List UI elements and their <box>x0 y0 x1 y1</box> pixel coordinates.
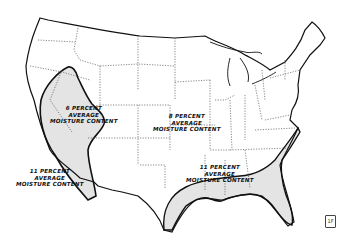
zone-label-gulf: 11 PERCENT AVERAGE MOISTURE CONTENT <box>186 164 254 184</box>
zone-label-pacific-coast: 11 PERCENT AVERAGE MOISTURE CONTENT <box>16 168 84 188</box>
zone-label-interior-line3: MOISTURE CONTENT <box>153 126 221 133</box>
zone-label-west: 6 PERCENT AVERAGE MOISTURE CONTENT <box>50 105 118 125</box>
zone-label-west-line1: 6 PERCENT <box>50 105 118 112</box>
zone-label-gulf-line3: MOISTURE CONTENT <box>186 177 254 184</box>
zone-label-pacific-line2: AVERAGE <box>16 175 84 182</box>
zone-label-pacific-line3: MOISTURE CONTENT <box>16 181 84 188</box>
zone-label-gulf-line2: AVERAGE <box>186 171 254 178</box>
moisture-map: 6 PERCENT AVERAGE MOISTURE CONTENT 8 PER… <box>0 0 350 244</box>
zone-label-west-line3: MOISTURE CONTENT <box>50 118 118 125</box>
zone-label-interior-line2: AVERAGE <box>153 120 221 127</box>
zone-label-gulf-line1: 11 PERCENT <box>186 164 254 171</box>
zone-label-interior: 8 PERCENT AVERAGE MOISTURE CONTENT <box>153 113 221 133</box>
zone-label-pacific-line1: 11 PERCENT <box>16 168 84 175</box>
figure-stamp: 1F <box>325 215 336 228</box>
zone-label-interior-line1: 8 PERCENT <box>153 113 221 120</box>
great-lakes <box>210 42 276 86</box>
zone-label-west-line2: AVERAGE <box>50 112 118 119</box>
